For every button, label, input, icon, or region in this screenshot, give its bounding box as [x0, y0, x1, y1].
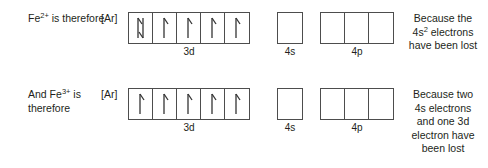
reason-line: been lost — [400, 142, 486, 156]
orbital-box[interactable] — [345, 13, 369, 43]
orbital-box[interactable] — [225, 89, 249, 119]
orbital-box[interactable] — [321, 13, 345, 43]
orbital-label-4s: 4s — [277, 122, 303, 134]
orbital-box[interactable] — [278, 89, 302, 119]
electron-up-arrow-icon — [153, 13, 176, 43]
orbital-group-4s: 4s — [277, 12, 303, 58]
reason-superscript: 2 — [424, 24, 428, 33]
orbital-box[interactable] — [201, 89, 225, 119]
electron-up-arrow-icon — [177, 13, 200, 43]
orbital-box[interactable] — [153, 89, 177, 119]
electron-pair-up-down-icon — [129, 13, 152, 43]
noble-gas-core-label: [Ar] — [101, 88, 117, 102]
noble-gas-core-label: [Ar] — [101, 12, 117, 26]
reason-line: electron have — [400, 129, 486, 143]
lead-tail-text: is therefore — [49, 12, 104, 24]
orbital-box[interactable] — [129, 13, 153, 43]
orbital-box[interactable] — [369, 89, 393, 119]
electron-up-arrow-icon — [225, 13, 249, 43]
orbital-label-4s: 4s — [277, 46, 303, 58]
electron-up-arrow-icon — [225, 89, 249, 119]
orbital-box[interactable] — [278, 13, 302, 43]
reason-line: Because two — [400, 88, 486, 102]
electron-up-arrow-icon — [129, 89, 152, 119]
electron-up-arrow-icon — [153, 89, 176, 119]
orbital-box[interactable] — [177, 89, 201, 119]
orbital-box[interactable] — [345, 89, 369, 119]
reason-line: and one 3d — [400, 115, 486, 129]
lead-charge-superscript: 2+ — [40, 11, 49, 20]
orbital-boxes-4p — [320, 88, 394, 120]
orbital-group-4p: 4p — [320, 88, 394, 134]
orbital-boxes-3d — [128, 12, 250, 44]
lead-element-symbol: Fe — [28, 12, 40, 24]
orbital-group-3d: 3d — [128, 12, 250, 58]
orbital-label-3d: 3d — [128, 122, 250, 134]
row-reason-text: Because two 4s electrons and one 3d elec… — [400, 88, 486, 156]
lead-element-symbol: Fe — [50, 88, 62, 100]
orbital-group-4s: 4s — [277, 88, 303, 134]
reason-line: 4s2 electrons — [400, 26, 486, 40]
orbital-group-4p: 4p — [320, 12, 394, 58]
orbital-box[interactable] — [201, 13, 225, 43]
orbital-box[interactable] — [153, 13, 177, 43]
electron-up-arrow-icon — [201, 13, 224, 43]
reason-line: have been lost — [400, 39, 486, 53]
reason-line: Because the — [400, 12, 486, 26]
electron-up-arrow-icon — [177, 89, 200, 119]
orbital-boxes-3d — [128, 88, 250, 120]
orbital-boxes-4s — [277, 12, 303, 44]
orbital-box[interactable] — [369, 13, 393, 43]
orbital-label-4p: 4p — [320, 122, 394, 134]
orbital-label-4p: 4p — [320, 46, 394, 58]
reason-line: 4s electrons — [400, 102, 486, 116]
electron-up-arrow-icon — [201, 89, 224, 119]
row-reason-text: Because the 4s2 electrons have been lost — [400, 12, 486, 53]
orbital-box[interactable] — [129, 89, 153, 119]
orbital-box[interactable] — [225, 13, 249, 43]
lead-prefix-text: And — [28, 88, 50, 100]
orbital-boxes-4s — [277, 88, 303, 120]
electron-configuration-diagram: Fe2+ is therefore [Ar] — [0, 0, 488, 168]
orbital-box[interactable] — [321, 89, 345, 119]
orbital-label-3d: 3d — [128, 46, 250, 58]
orbital-boxes-4p — [320, 12, 394, 44]
orbital-box[interactable] — [177, 13, 201, 43]
orbital-group-3d: 3d — [128, 88, 250, 134]
